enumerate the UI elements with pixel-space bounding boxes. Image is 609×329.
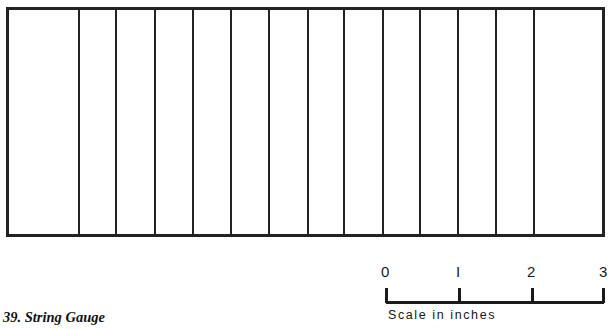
scale-tick-label-3: 3 [599, 264, 607, 279]
scale-bar: 0 I 2 3 [370, 262, 609, 308]
figure-caption: 39. String Gauge [3, 309, 105, 326]
scale-caption: Scale in inches [388, 308, 496, 322]
scale-tick-label-1: I [456, 264, 460, 279]
figure-page: 0 I 2 3 Scale in inches 39. String Gauge [0, 0, 609, 329]
scale-tick-label-0: 0 [381, 264, 389, 279]
gauge-outline-group [8, 9, 604, 236]
scale-bar-svg [370, 262, 609, 308]
scale-tick-label-2: 2 [527, 264, 535, 279]
gauge-outline [8, 9, 604, 236]
string-gauge-svg [0, 0, 609, 245]
string-gauge-diagram [0, 0, 609, 245]
